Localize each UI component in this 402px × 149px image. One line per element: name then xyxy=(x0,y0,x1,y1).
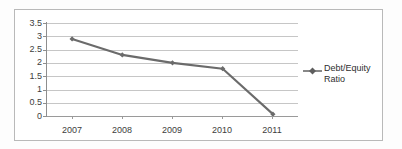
x-axis-label-2011: 2011 xyxy=(262,126,281,135)
x-axis-tick-2011 xyxy=(272,116,273,119)
legend-label-debt-equity-ratio: Debt/Equity Ratio xyxy=(324,63,381,85)
legend-label-line-2: Ratio xyxy=(324,74,345,84)
x-axis-tick-2008 xyxy=(122,116,123,119)
y-axis-label-5: 1 xyxy=(37,85,42,94)
chart-figure: 3.5 3 2.5 2 1.5 1 0.5 0 2007 2008 20 xyxy=(0,0,402,149)
line-diamond-marker-icon xyxy=(303,67,322,75)
x-axis-tick-2010 xyxy=(222,116,223,119)
x-axis-label-2009: 2009 xyxy=(162,126,182,135)
y-axis-label-7: 0 xyxy=(37,112,42,121)
x-axis-tick-2009 xyxy=(172,116,173,119)
data-point-2009 xyxy=(170,60,175,65)
x-axis-label-2010: 2010 xyxy=(212,126,232,135)
chart-legend: Debt/Equity Ratio xyxy=(303,63,381,85)
y-axis-label-6: 0.5 xyxy=(29,98,42,107)
series-line xyxy=(72,39,273,114)
y-axis-label-4: 1.5 xyxy=(29,72,42,81)
plot-area xyxy=(47,23,298,116)
data-point-2008 xyxy=(120,52,125,57)
series-debt-equity-ratio xyxy=(47,23,298,116)
x-axis-label-2008: 2008 xyxy=(112,126,132,135)
x-axis-tick-2007 xyxy=(72,116,73,119)
y-axis-label-2: 2.5 xyxy=(29,45,42,54)
x-axis-label-2007: 2007 xyxy=(62,126,82,135)
y-axis-label-3: 2 xyxy=(37,58,42,67)
y-axis-labels: 3.5 3 2.5 2 1.5 1 0.5 0 xyxy=(14,0,42,149)
y-axis-label-1: 3 xyxy=(37,32,42,41)
data-point-2007 xyxy=(70,36,75,41)
legend-label-line-1: Debt/Equity xyxy=(324,63,371,73)
y-axis-label-0: 3.5 xyxy=(29,19,42,28)
